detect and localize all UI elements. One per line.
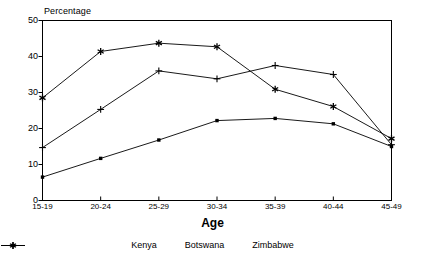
y-tick-label: 20: [16, 124, 38, 133]
data-point-marker: [155, 68, 162, 75]
x-axis-ticks: [43, 197, 392, 201]
x-tick-label: 25-29: [139, 202, 179, 211]
data-point-marker: [41, 175, 44, 178]
legend-item-botswana[interactable]: Botswana: [185, 240, 225, 251]
data-point-marker: [214, 75, 221, 82]
series-botswana: [39, 62, 395, 151]
data-point-marker: [332, 122, 335, 125]
y-tick-label: 40: [16, 52, 38, 61]
legend-label: Botswana: [185, 240, 225, 251]
data-point-marker: [99, 157, 102, 160]
plot-area: [0, 0, 425, 272]
data-point-marker: [273, 117, 276, 120]
y-tick-label: 50: [16, 16, 38, 25]
x-tick-label: 40-44: [313, 202, 353, 211]
series-line: [43, 43, 392, 138]
series-layer: [39, 40, 395, 179]
data-point-marker: [272, 86, 278, 93]
x-axis-title: Age: [0, 216, 425, 230]
x-tick-label: 15-19: [23, 202, 63, 211]
x-tick-label: 20-24: [81, 202, 121, 211]
x-tick-label: 45-49: [372, 202, 412, 211]
y-axis-ticks: [39, 21, 43, 201]
data-point-marker: [39, 144, 46, 151]
legend-label: Kenya: [131, 240, 157, 251]
chart-legend: KenyaBotswanaZimbabwe: [0, 240, 425, 251]
line-chart: Percentage 50403020100 15-1920-2425-2930…: [0, 0, 425, 272]
data-point-marker: [272, 62, 279, 69]
series-kenya: [41, 117, 393, 179]
y-axis-tick-labels: 50403020100: [14, 0, 38, 272]
y-tick-label: 30: [16, 88, 38, 97]
data-point-marker: [157, 138, 160, 141]
data-point-marker: [330, 103, 336, 110]
x-tick-label: 35-39: [255, 202, 295, 211]
data-point-marker: [39, 94, 45, 101]
x-tick-label: 30-34: [197, 202, 237, 211]
legend-item-zimbabwe[interactable]: Zimbabwe: [252, 240, 294, 251]
asterisk-marker-icon: [0, 240, 26, 251]
data-point-marker: [388, 135, 394, 142]
legend-label: Zimbabwe: [252, 240, 294, 251]
data-point-marker: [97, 106, 104, 113]
data-point-marker: [215, 119, 218, 122]
legend-item-kenya[interactable]: Kenya: [131, 240, 157, 251]
y-tick-label: 10: [16, 160, 38, 169]
series-line: [43, 118, 392, 177]
